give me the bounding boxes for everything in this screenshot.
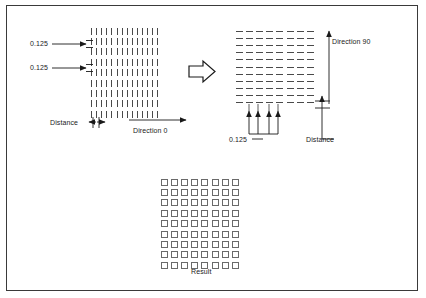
hatch-dash-horizontal (276, 52, 283, 53)
result-cell (212, 262, 219, 269)
result-cell (232, 179, 239, 186)
hatch-dash-horizontal (297, 102, 304, 103)
result-cell (212, 241, 219, 248)
hatch-dash-vertical (137, 111, 138, 118)
result-cell (232, 220, 239, 227)
hatch-dash-vertical (117, 59, 118, 66)
hatch-dash-vertical (96, 28, 97, 35)
hatch-dash-horizontal (266, 52, 273, 53)
hatch-dash-horizontal (287, 95, 294, 96)
hatch-dash-horizontal (246, 59, 253, 60)
hatch-dash-vertical (157, 90, 158, 97)
hatch-dash-horizontal (307, 88, 314, 89)
left-spacing-label-bottom: 0.125 (30, 64, 48, 71)
result-cell (191, 179, 198, 186)
hatch-dash-horizontal (256, 67, 263, 68)
result-cell (212, 199, 219, 206)
hatch-dash-vertical (96, 111, 97, 118)
hatch-dash-vertical (127, 59, 128, 66)
result-cell (212, 210, 219, 217)
hatch-dash-horizontal (307, 38, 314, 39)
hatch-dash-horizontal (256, 38, 263, 39)
hatch-dash-horizontal (287, 102, 294, 103)
hatch-dash-horizontal (266, 102, 273, 103)
diagram-page: 0.125 0.125 Distance Direction 0 Directi… (0, 0, 426, 298)
hatch-dash-vertical (111, 38, 112, 45)
result-cell (171, 179, 178, 186)
result-cell (171, 189, 178, 196)
hatch-dash-horizontal (276, 31, 283, 32)
hatch-dash-vertical (132, 48, 133, 55)
result-cell (201, 231, 208, 238)
hatch-dash-vertical (111, 80, 112, 87)
hatch-dash-vertical (91, 48, 92, 55)
hatch-dash-vertical (122, 69, 123, 76)
hatch-dash-horizontal (276, 95, 283, 96)
result-cell (191, 231, 198, 238)
hatch-dash-vertical (122, 100, 123, 107)
right-spacing-label: 0.125 (229, 136, 247, 143)
hatch-dash-vertical (152, 90, 153, 97)
hatch-dash-horizontal (287, 38, 294, 39)
hatch-dash-horizontal (276, 102, 283, 103)
result-cell (181, 251, 188, 258)
hatch-dash-horizontal (307, 74, 314, 75)
hatch-dash-vertical (142, 59, 143, 66)
hatch-dash-horizontal (297, 52, 304, 53)
hatch-dash-vertical (132, 90, 133, 97)
hatch-dash-vertical (122, 38, 123, 45)
hatch-dash-horizontal (276, 67, 283, 68)
hatch-dash-horizontal (236, 88, 243, 89)
hatch-dash-horizontal (236, 67, 243, 68)
hatch-dash-horizontal (287, 81, 294, 82)
hatch-dash-horizontal (256, 95, 263, 96)
result-cell (191, 189, 198, 196)
result-cell (222, 199, 229, 206)
hatch-dash-vertical (157, 59, 158, 66)
hatch-dash-horizontal (297, 38, 304, 39)
hatch-dash-vertical (111, 90, 112, 97)
hatch-dash-vertical (132, 28, 133, 35)
hatch-dash-vertical (127, 90, 128, 97)
hatch-dash-vertical (137, 28, 138, 35)
hatch-dash-horizontal (266, 45, 273, 46)
result-cell (222, 241, 229, 248)
hatch-dash-vertical (137, 69, 138, 76)
result-cell (201, 179, 208, 186)
hatch-dash-vertical (106, 90, 107, 97)
hatch-dash-vertical (132, 38, 133, 45)
hatch-dash-vertical (106, 69, 107, 76)
hatch-dash-vertical (152, 100, 153, 107)
hatch-dash-vertical (132, 69, 133, 76)
hatch-dash-vertical (101, 80, 102, 87)
hatch-dash-vertical (157, 69, 158, 76)
result-cell (232, 199, 239, 206)
result-cell (181, 231, 188, 238)
hatch-dash-vertical (117, 100, 118, 107)
result-cell (222, 220, 229, 227)
hatch-dash-horizontal (276, 88, 283, 89)
result-cell (212, 251, 219, 258)
hatch-dash-vertical (157, 111, 158, 118)
hatch-dash-horizontal (297, 67, 304, 68)
hatch-dash-vertical (96, 48, 97, 55)
hatch-dash-vertical (91, 38, 92, 45)
hatch-dash-vertical (101, 100, 102, 107)
hatch-dash-horizontal (307, 81, 314, 82)
hatch-dash-vertical (152, 38, 153, 45)
hatch-dash-vertical (122, 48, 123, 55)
hatch-dash-horizontal (256, 102, 263, 103)
hatch-dash-vertical (106, 100, 107, 107)
hatch-dash-vertical (106, 48, 107, 55)
result-cell (201, 189, 208, 196)
hatch-dash-vertical (111, 111, 112, 118)
hatch-dash-vertical (152, 111, 153, 118)
hatch-dash-vertical (91, 28, 92, 35)
result-cell (181, 262, 188, 269)
result-cell (161, 199, 168, 206)
hatch-dash-vertical (142, 69, 143, 76)
result-cell (181, 220, 188, 227)
hatch-dash-horizontal (266, 31, 273, 32)
hatch-dash-horizontal (266, 59, 273, 60)
result-cell (201, 241, 208, 248)
